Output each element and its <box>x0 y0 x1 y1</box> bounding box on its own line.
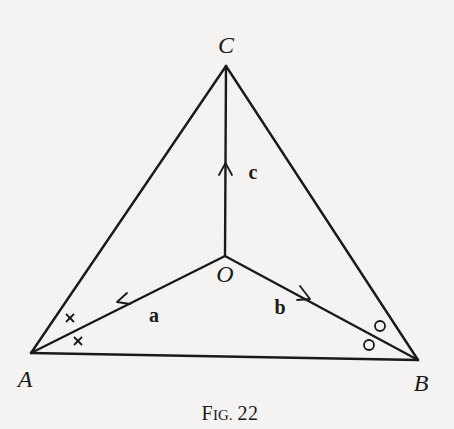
point-label-B: B <box>414 370 429 396</box>
angle-mark-circle-icon <box>375 321 385 331</box>
point-label-C: C <box>218 32 235 58</box>
figure-caption: FIG.22 <box>201 402 258 424</box>
angle-mark-circle-icon <box>364 340 374 350</box>
vector-label-c: c <box>249 161 258 183</box>
edge-AB <box>31 353 418 360</box>
angle-mark-cross-icon <box>74 337 82 345</box>
vector-label-a: a <box>149 304 159 326</box>
triangle-diagram: C O A B c a b FIG.22 <box>0 0 454 429</box>
vector-label-b: b <box>274 296 285 318</box>
vector-b-line <box>225 256 418 360</box>
edge-AC <box>31 66 226 353</box>
angle-mark-cross-icon <box>66 314 74 322</box>
vector-c-line <box>225 66 226 256</box>
arrowhead-a-icon <box>117 293 130 304</box>
point-label-O: O <box>216 261 233 287</box>
point-label-A: A <box>16 366 33 392</box>
edge-BC <box>226 66 418 360</box>
